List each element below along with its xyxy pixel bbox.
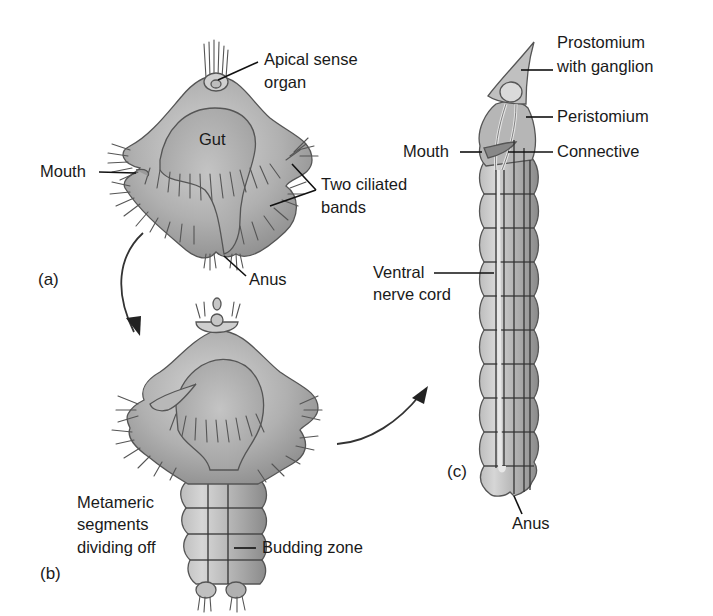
label-ventral-nerve-cord: Ventral	[373, 263, 424, 281]
label-apical-sense-organ: Apical sense	[264, 50, 358, 68]
annelid-development-figure: Apical sense organ Gut Mouth Two ciliate…	[0, 0, 713, 616]
label-metameric-segments-3: dividing off	[77, 538, 156, 556]
panel-label-b: (b)	[40, 564, 61, 583]
label-connective: Connective	[557, 142, 640, 160]
metamorphosing-larva-b	[112, 298, 322, 612]
leader-apical	[218, 62, 258, 80]
label-anus-c: Anus	[512, 514, 550, 532]
apical-tuft-icon	[204, 40, 228, 78]
label-apical-sense-organ-2: organ	[264, 73, 306, 91]
leader-anus-c	[514, 496, 522, 514]
young-worm-c	[479, 42, 538, 496]
label-metameric-segments-2: segments	[77, 515, 149, 533]
label-ventral-nerve-cord-2: nerve cord	[373, 285, 451, 303]
label-two-ciliated-bands-2: bands	[321, 198, 366, 216]
panel-label-a: (a)	[38, 270, 59, 289]
label-mouth-c: Mouth	[403, 142, 449, 160]
panel-label-c: (c)	[447, 462, 467, 481]
label-mouth-a: Mouth	[40, 162, 86, 180]
label-gut: Gut	[199, 130, 226, 148]
label-prostomium-2: with ganglion	[556, 57, 653, 75]
label-anus-a: Anus	[249, 270, 287, 288]
arrow-b-to-c	[337, 386, 428, 444]
label-budding-zone: Budding zone	[262, 538, 363, 556]
label-prostomium: Prostomium	[557, 33, 645, 51]
label-two-ciliated-bands: Two ciliated	[321, 175, 407, 193]
leader-mouth-a	[99, 172, 136, 173]
label-peristomium: Peristomium	[557, 107, 649, 125]
label-metameric-segments: Metameric	[77, 493, 154, 511]
arrow-a-to-b	[121, 233, 143, 336]
